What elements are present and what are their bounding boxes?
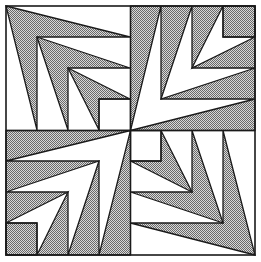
corner-square	[99, 99, 131, 131]
quadrant-top-left	[6, 6, 131, 131]
corner-square	[131, 131, 162, 162]
quadrant-bottom-left	[6, 131, 131, 256]
quadrant-bottom-right	[131, 131, 256, 256]
quilt-block-diagram	[0, 0, 261, 262]
quadrant-top-right	[131, 6, 256, 131]
